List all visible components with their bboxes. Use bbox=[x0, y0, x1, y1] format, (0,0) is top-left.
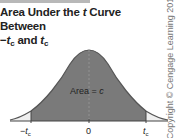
t-curve-chart: Area = c −tc 0 tc bbox=[0, 0, 180, 138]
tick-label-zero: 0 bbox=[86, 126, 91, 136]
tick-label-tc: tc bbox=[143, 126, 149, 137]
area-label: Area = c bbox=[70, 86, 104, 96]
copyright-notice: Copyright © Cengage Learning 2013 bbox=[165, 0, 175, 138]
tick-label-neg-tc: −tc bbox=[20, 126, 31, 137]
